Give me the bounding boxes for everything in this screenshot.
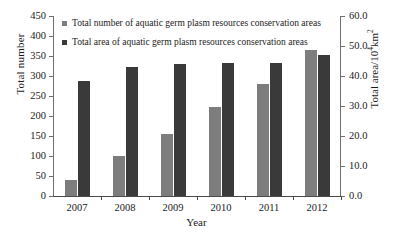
y-axis-right-title-unit-exponent: 2 [366,29,375,33]
y-axis-left-tick-label: 100 [30,151,46,162]
y-axis-right-tick-label: 50.0 [349,41,367,52]
legend-item-label: Total number of aquatic germ plasm resou… [72,19,321,29]
y-axis-right-title-unit: km [368,33,380,47]
bar-total-number [209,107,221,196]
y-axis-left-line [53,16,54,196]
x-axis-category-label: 2007 [53,202,101,213]
x-axis-tick [101,196,102,200]
x-axis-category-label: 2009 [149,202,197,213]
x-axis-category-label: 2012 [293,202,341,213]
x-axis-category-label: 2011 [245,202,293,213]
x-axis-tick [197,196,198,200]
y-axis-left-tick [49,136,53,137]
bar-total-number [257,84,269,196]
bar-chart: Total number Total area/104km2 Year 0501… [0,0,393,238]
x-axis-tick [245,196,246,200]
y-axis-left-tick [49,176,53,177]
y-axis-right-tick [341,166,345,167]
y-axis-left-tick-label: 300 [30,71,46,82]
y-axis-left-tick-label: 400 [30,31,46,42]
y-axis-left-tick [49,116,53,117]
y-axis-left-tick-label: 150 [30,131,46,142]
y-axis-right-title-base: Total area/10 [368,51,380,109]
y-axis-left-tick-label: 450 [30,11,46,22]
y-axis-left-title: Total number [14,4,26,124]
y-axis-right-tick [341,16,345,17]
x-axis-tick [149,196,150,200]
y-axis-right-tick-label: 30.0 [349,101,367,112]
bar-total-area [78,81,90,197]
bar-total-number [161,134,173,196]
y-axis-right-tick-label: 0.0 [349,191,362,202]
x-axis-tick [341,196,342,200]
y-axis-left-tick [49,96,53,97]
bar-total-area [174,64,186,196]
legend-item[interactable]: Total area of aquatic germ plasm resourc… [62,36,321,49]
y-axis-left-tick-label: 200 [30,111,46,122]
x-axis-title: Year [0,216,393,228]
bar-total-area [318,55,330,196]
y-axis-right-title-exponent: 4 [366,47,375,51]
legend-swatch-icon [62,21,67,26]
y-axis-right-tick [341,106,345,107]
y-axis-right-title: Total area/104km2 [366,9,380,129]
bar-total-number [113,156,125,196]
y-axis-left-tick-label: 50 [36,171,47,182]
y-axis-right-tick-label: 20.0 [349,131,367,142]
bar-total-number [65,180,77,196]
y-axis-right-tick [341,76,345,77]
y-axis-right-tick [341,136,345,137]
y-axis-left-tick [49,16,53,17]
y-axis-left-tick [49,36,53,37]
y-axis-left-tick [49,56,53,57]
x-axis-category-label: 2010 [197,202,245,213]
y-axis-left-tick-label: 0 [41,191,46,202]
bar-total-area [126,67,138,196]
legend-swatch-icon [62,40,67,45]
y-axis-left-tick [49,156,53,157]
y-axis-left-tick-label: 350 [30,51,46,62]
y-axis-right-tick-label: 10.0 [349,161,367,172]
y-axis-left-tick-label: 250 [30,91,46,102]
y-axis-right-tick-label: 40.0 [349,71,367,82]
y-axis-left-tick [49,196,53,197]
chart-legend: Total number of aquatic germ plasm resou… [62,17,321,55]
x-axis-category-label: 2008 [101,202,149,213]
x-axis-tick [293,196,294,200]
bar-total-number [305,50,317,196]
legend-item-label: Total area of aquatic germ plasm resourc… [72,38,308,48]
legend-item[interactable]: Total number of aquatic germ plasm resou… [62,17,321,30]
bar-total-area [270,63,282,196]
bar-total-area [222,63,234,196]
y-axis-right-tick [341,46,345,47]
y-axis-right-tick-label: 60.0 [349,11,367,22]
y-axis-left-tick [49,76,53,77]
